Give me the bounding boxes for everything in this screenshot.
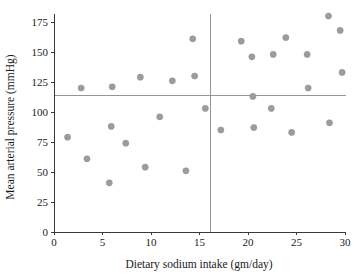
data-point xyxy=(169,78,175,84)
data-point xyxy=(339,69,345,75)
data-point xyxy=(218,127,224,133)
y-tick-label: 50 xyxy=(37,166,49,178)
data-points xyxy=(64,13,345,186)
plot-area: 051015202530 0255075100125150175 Dietary… xyxy=(0,0,363,277)
y-tick-label: 175 xyxy=(32,16,49,28)
data-point xyxy=(238,38,244,44)
x-axis-title: Dietary sodium intake (gm/day) xyxy=(125,258,272,271)
x-tick-label: 15 xyxy=(194,236,206,248)
data-point xyxy=(137,74,143,80)
data-point xyxy=(283,35,289,41)
data-point xyxy=(251,125,257,131)
data-point xyxy=(326,120,332,126)
data-point xyxy=(337,27,343,33)
x-tick-label: 0 xyxy=(51,236,57,248)
data-point xyxy=(123,140,129,146)
data-point xyxy=(268,105,274,111)
data-point xyxy=(250,93,256,99)
data-point xyxy=(192,73,198,79)
axis-ticks xyxy=(51,22,345,235)
x-tick-label: 10 xyxy=(146,236,158,248)
x-tick-label: 20 xyxy=(243,236,255,248)
data-point xyxy=(305,85,311,91)
data-point xyxy=(64,134,70,140)
data-point xyxy=(325,13,331,19)
scatter-chart: 051015202530 0255075100125150175 Dietary… xyxy=(0,0,363,277)
data-point xyxy=(190,36,196,42)
data-point xyxy=(202,105,208,111)
data-point xyxy=(109,84,115,90)
data-point xyxy=(289,129,295,135)
y-tick-label: 125 xyxy=(32,76,49,88)
data-point xyxy=(157,114,163,120)
data-point xyxy=(183,168,189,174)
y-tick-label: 75 xyxy=(37,136,49,148)
y-axis-title: Mean arterial pressure (mmHg) xyxy=(4,54,17,199)
y-tick-label: 0 xyxy=(43,226,49,238)
x-tick-label: 5 xyxy=(100,236,106,248)
x-tick-labels: 051015202530 xyxy=(51,236,351,248)
y-tick-label: 25 xyxy=(37,196,49,208)
x-tick-label: 30 xyxy=(340,236,352,248)
data-point xyxy=(78,85,84,91)
data-point xyxy=(270,51,276,57)
data-point xyxy=(249,54,255,60)
y-tick-labels: 0255075100125150175 xyxy=(32,16,49,238)
data-point xyxy=(142,164,148,170)
reference-lines xyxy=(54,14,346,232)
data-point xyxy=(108,123,114,129)
y-tick-label: 100 xyxy=(32,106,49,118)
data-point xyxy=(106,180,112,186)
data-point xyxy=(84,156,90,162)
axis-lines xyxy=(54,14,346,232)
x-tick-label: 25 xyxy=(291,236,303,248)
y-tick-label: 150 xyxy=(32,46,49,58)
data-point xyxy=(304,51,310,57)
